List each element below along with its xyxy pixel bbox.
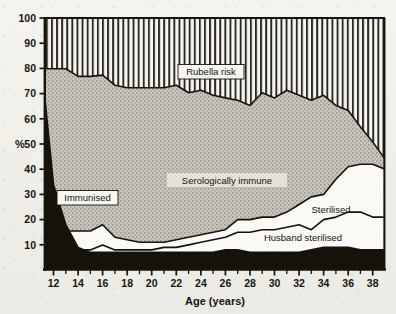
x-tick-label-34: 34 (318, 277, 330, 289)
y-tick-label-80: 80 (24, 62, 36, 74)
x-tick-label-28: 28 (244, 277, 256, 289)
x-axis-title: Age (years) (185, 295, 245, 307)
y-tick-label-10: 10 (24, 239, 36, 251)
annotation-sterilised: Sterilised (311, 204, 350, 215)
y-tick-label-20: 20 (24, 213, 36, 225)
sterilised-label: Sterilised (311, 204, 350, 215)
x-tick-label-30: 30 (269, 277, 281, 289)
annotation-serologically-immune: Serologically immune (167, 173, 287, 187)
y-tick-label-70: 70 (24, 87, 36, 99)
x-tick-label-14: 14 (72, 277, 84, 289)
x-tick-label-26: 26 (220, 277, 232, 289)
rubella-risk-label: Rubella risk (186, 66, 236, 77)
y-axis-title: % (15, 138, 25, 150)
x-tick-label-22: 22 (170, 277, 182, 289)
y-tick-label-30: 30 (24, 188, 36, 200)
immunised-label: Immunised (64, 192, 110, 203)
x-tick-label-18: 18 (121, 277, 133, 289)
x-tick-label-38: 38 (367, 277, 379, 289)
x-tick-label-12: 12 (48, 277, 60, 289)
x-tick-label-32: 32 (293, 277, 305, 289)
y-tick-label-60: 60 (24, 113, 36, 125)
y-tick-label-90: 90 (24, 37, 36, 49)
chart-canvas: 10 20 30 40 50 60 70 80 90 100 (0, 0, 396, 314)
x-tick-label-36: 36 (342, 277, 354, 289)
serologically-immune-label: Serologically immune (182, 175, 272, 186)
y-tick-label-100: 100 (18, 12, 36, 24)
x-tick-label-16: 16 (97, 277, 109, 289)
annotation-husband-sterilised: Husband sterilised (264, 232, 342, 243)
y-axis-ticks: 10 20 30 40 50 60 70 80 90 100 (18, 12, 45, 251)
x-axis-ticks: 12 14 16 18 20 22 24 26 28 30 32 34 36 3… (48, 270, 379, 289)
x-tick-label-20: 20 (146, 277, 158, 289)
y-tick-label-50: 50 (24, 138, 36, 150)
rubella-immunity-area-chart: 10 20 30 40 50 60 70 80 90 100 (0, 0, 396, 314)
annotation-immunised: Immunised (57, 191, 118, 206)
y-tick-label-40: 40 (24, 163, 36, 175)
husband-sterilised-label: Husband sterilised (264, 232, 342, 243)
annotation-rubella-risk: Rubella risk (178, 65, 244, 80)
x-tick-label-24: 24 (195, 277, 207, 289)
